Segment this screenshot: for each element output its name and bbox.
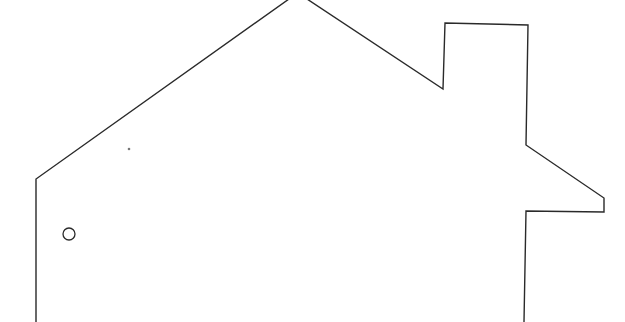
circle-mark bbox=[63, 228, 75, 240]
house-outline-svg bbox=[0, 0, 625, 322]
house-outline bbox=[36, 0, 604, 322]
house-drawing: Line drawing outline of a house with chi… bbox=[0, 0, 625, 322]
dot-mark bbox=[128, 148, 131, 151]
